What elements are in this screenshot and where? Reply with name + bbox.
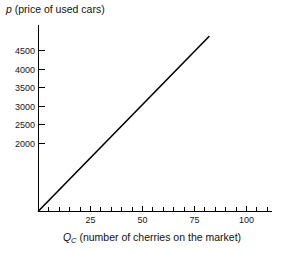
y-tick-label-2500: 2500 (15, 120, 35, 130)
chart-figure: p (price of used cars) 2000 2500 3000 35… (0, 0, 304, 254)
y-tick-label-3000: 3000 (15, 102, 35, 112)
x-axis-title: QC (number of cherries on the market) (0, 231, 304, 247)
x-tick-label-25: 25 (85, 215, 95, 225)
x-tick-label-75: 75 (189, 215, 199, 225)
y-tick-label-3500: 3500 (15, 83, 35, 93)
x-axis-title-variable: Q (63, 231, 71, 243)
y-tick-label-4000: 4000 (15, 65, 35, 75)
x-axis-title-text: (number of cherries on the market) (77, 231, 242, 243)
x-tick-label-50: 50 (137, 215, 147, 225)
plot-area: 2000 2500 3000 3500 4000 4500 25 50 75 1… (0, 0, 304, 254)
supply-curve-line (39, 37, 210, 212)
y-tick-label-4500: 4500 (15, 46, 35, 56)
x-tick-label-100: 100 (239, 215, 254, 225)
y-tick-label-2000: 2000 (15, 139, 35, 149)
